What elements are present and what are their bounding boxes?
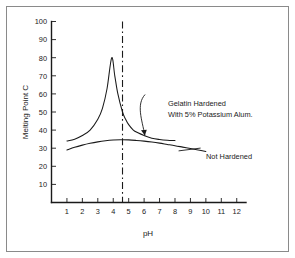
y-tick-label: 10: [39, 180, 47, 189]
x-tick-label: 7: [157, 207, 161, 216]
y-tick-label: 20: [39, 162, 47, 171]
x-tick-label: 11: [217, 207, 225, 216]
x-tick-label: 4: [111, 207, 115, 216]
x-tick-label: 3: [96, 207, 100, 216]
y-tick-label: 40: [39, 126, 47, 135]
y-tick-label: 100: [35, 17, 47, 26]
x-tick-label: 9: [188, 207, 192, 216]
hardened-annotation-line-1: Gelatin Hardened: [168, 99, 226, 108]
y-tick-label: 90: [39, 35, 47, 44]
x-tick-label: 12: [233, 207, 241, 216]
x-tick-label: 10: [202, 207, 210, 216]
melting-point-vs-ph-chart: 102030405060708090100 123456789101112 pH…: [0, 0, 295, 258]
x-tick-label: 5: [127, 207, 131, 216]
y-tick-label: 30: [39, 144, 47, 153]
y-tick-label: 80: [39, 54, 47, 63]
y-tick-label: 70: [39, 72, 47, 81]
y-tick-label: 50: [39, 108, 47, 117]
x-axis-title: pH: [143, 229, 153, 238]
y-tick-label: 60: [39, 90, 47, 99]
x-axis-tick-labels: 123456789101112: [65, 207, 241, 216]
not-hardened-annotation: Not Hardened: [206, 152, 252, 161]
chart-figure: 102030405060708090100 123456789101112 pH…: [0, 0, 295, 258]
y-axis-title: Melting Point C: [21, 85, 30, 139]
x-tick-label: 1: [65, 207, 69, 216]
hardened-annotation-line-2: With 5% Potassium Alum.: [168, 110, 253, 119]
series-line-gelatin-hardened: [67, 57, 175, 140]
x-tick-label: 2: [80, 207, 84, 216]
x-tick-label: 6: [142, 207, 146, 216]
hardened-callout-arrow: [140, 95, 145, 136]
y-axis-tick-labels: 102030405060708090100: [35, 17, 47, 189]
x-tick-label: 8: [173, 207, 177, 216]
